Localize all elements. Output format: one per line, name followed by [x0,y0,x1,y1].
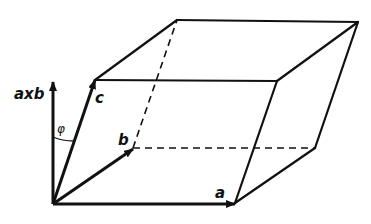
edge-front-right [235,81,277,203]
edge-c-to-top-back-left [95,20,177,80]
label-axb: axb [14,85,45,103]
vector-b [53,149,133,204]
vectors [53,80,235,204]
vector-c [53,80,95,204]
visible-edges [95,20,358,203]
edge-top-right [277,22,358,81]
label-b: b [118,131,129,149]
edge-back-right [315,22,358,148]
edge-c-to-top-front-right [95,80,277,81]
label-phi: φ [57,122,65,136]
label-c: c [95,89,104,107]
edge-top-back [177,20,358,22]
hidden-edge-b-to-top-back-left [133,20,177,148]
angle-phi-arc [53,137,74,141]
label-a: a [215,184,225,202]
edge-bottom-right [235,148,315,203]
parallelepiped-diagram: axb c φ b a [0,0,371,224]
hidden-edges [133,20,315,148]
